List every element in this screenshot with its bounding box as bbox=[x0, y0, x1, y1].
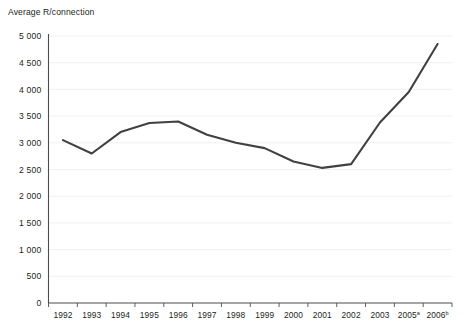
x-axis-tick-labels: 1992199319941995199619971998199920002001… bbox=[53, 310, 448, 321]
x-axis-tick-label: 2006b bbox=[426, 310, 448, 321]
x-axis-tick-label: 1997 bbox=[198, 310, 217, 320]
x-axis-tick-label: 1999 bbox=[255, 310, 274, 320]
x-axis-tick-label: 1998 bbox=[226, 310, 245, 320]
y-axis-tick-label: 0 bbox=[37, 298, 42, 308]
x-axis-tick-label: 1994 bbox=[111, 310, 130, 320]
x-axis-tick-label: 2003 bbox=[370, 310, 389, 320]
y-axis-tick-label: 3 000 bbox=[19, 138, 42, 148]
x-axis-tick-label: 2002 bbox=[342, 310, 361, 320]
x-axis-tick-marks bbox=[49, 303, 453, 307]
x-axis-tick-label-superscript: b bbox=[445, 310, 448, 316]
x-axis-tick-label: 2001 bbox=[313, 310, 332, 320]
y-axis-tick-labels: 05001 0001 5002 0002 5003 0003 5004 0004… bbox=[19, 31, 42, 308]
line-chart-plot: 05001 0001 5002 0002 5003 0003 5004 0004… bbox=[0, 0, 468, 327]
y-axis-tick-label: 2 500 bbox=[19, 165, 42, 175]
gridlines bbox=[49, 36, 453, 276]
y-axis-tick-label: 1 500 bbox=[19, 218, 42, 228]
y-axis-tick-label: 4 500 bbox=[19, 58, 42, 68]
x-axis-tick-label: 1995 bbox=[140, 310, 159, 320]
chart-container: Average R/connection 05001 0001 5002 000… bbox=[0, 0, 468, 327]
y-axis-tick-label: 2 000 bbox=[19, 191, 42, 201]
x-axis-tick-label: 1996 bbox=[169, 310, 188, 320]
y-axis-tick-label: 5 000 bbox=[19, 31, 42, 41]
y-axis-tick-label: 1 000 bbox=[19, 245, 42, 255]
x-axis-tick-label: 2000 bbox=[284, 310, 303, 320]
x-axis-tick-label-superscript: a bbox=[417, 310, 421, 316]
y-axis-tick-label: 3 500 bbox=[19, 111, 42, 121]
x-axis-tick-label: 1992 bbox=[53, 310, 72, 320]
y-axis-tick-label: 500 bbox=[27, 271, 42, 281]
y-axis-tick-label: 4 000 bbox=[19, 85, 42, 95]
x-axis-tick-label: 1993 bbox=[82, 310, 101, 320]
x-axis-tick-label: 2005a bbox=[398, 310, 421, 321]
